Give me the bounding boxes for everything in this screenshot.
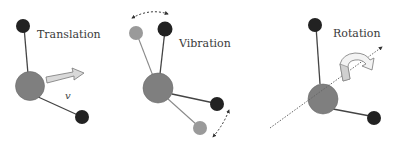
heavy-atom-center	[143, 73, 173, 103]
light-atom-top	[158, 22, 173, 37]
bond-top	[316, 26, 320, 84]
displaced-bond-top	[138, 37, 153, 76]
vibration-panel: Vibration	[129, 12, 231, 137]
vibration-label: Vibration	[178, 37, 231, 50]
displaced-bond-bottom	[168, 99, 197, 125]
translation-panel: v Translation	[16, 19, 101, 124]
displaced-atom-top	[129, 26, 143, 40]
light-atom-top	[308, 18, 322, 32]
molecular-motion-diagram: v Translation Vibration Rotation	[0, 0, 398, 145]
bond-bottom	[36, 96, 80, 116]
displaced-atom-bottom	[193, 121, 207, 135]
translation-label: Translation	[37, 28, 101, 41]
light-atom-right	[210, 97, 224, 111]
light-atom-bottom	[367, 111, 381, 125]
light-atom-bottom	[75, 110, 89, 124]
rotation-arrow-shaft	[340, 64, 350, 81]
heavy-atom-center	[308, 84, 338, 114]
light-atom-top	[16, 19, 30, 33]
vibration-arc-top-icon	[132, 12, 168, 18]
bond-top	[24, 27, 28, 74]
bond-right	[172, 94, 214, 103]
rotation-label: Rotation	[333, 27, 381, 40]
bond-bottom	[333, 109, 370, 116]
velocity-arrow-icon	[46, 68, 84, 83]
velocity-symbol: v	[65, 90, 71, 101]
heavy-atom-center	[16, 72, 45, 101]
rotation-panel: Rotation	[270, 18, 382, 128]
bond-top	[160, 30, 165, 74]
vibration-arc-bottom-icon	[213, 110, 229, 137]
